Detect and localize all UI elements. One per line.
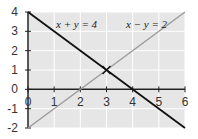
y-tick-label: 2 xyxy=(11,44,18,58)
x-tick-label: 2 xyxy=(77,95,84,109)
chart: 0123456 43210-1-2 x + y = 4x − y = 2 xyxy=(0,0,198,139)
x-tick-label: 6 xyxy=(182,95,189,109)
y-tick-label: 3 xyxy=(11,24,18,38)
y-tick-label: -2 xyxy=(7,121,18,135)
y-tick-label: 4 xyxy=(11,5,18,19)
y-tick-label: 1 xyxy=(11,63,18,77)
y-tick-label: 0 xyxy=(11,82,18,96)
equation-label-1: x + y = 4 xyxy=(55,18,98,30)
equation-label-2: x − y = 2 xyxy=(125,18,168,30)
x-tick-label: 0 xyxy=(25,95,32,109)
y-tick-label: -1 xyxy=(7,102,18,116)
y-tick-labels: 43210-1-2 xyxy=(7,5,18,135)
x-tick-label: 4 xyxy=(129,95,136,109)
x-tick-label: 3 xyxy=(103,95,110,109)
